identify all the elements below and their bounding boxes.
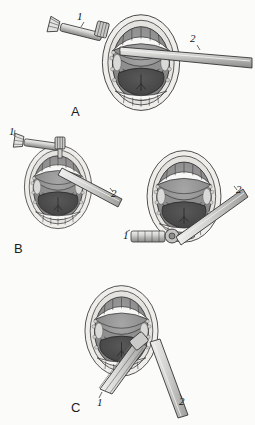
callout-C-1: 1 bbox=[97, 396, 103, 408]
callout-D-2: 2 bbox=[236, 183, 242, 195]
callout-D-1: 1 bbox=[123, 229, 129, 241]
callout-A-2: 2 bbox=[190, 32, 196, 44]
panel-A bbox=[47, 15, 252, 111]
panel-A-mouth bbox=[102, 15, 179, 111]
panel-D-mouth bbox=[147, 151, 221, 243]
callout-A-1: 1 bbox=[77, 10, 83, 22]
panel-letter-B: B bbox=[14, 241, 23, 256]
callout-B-2: 2 bbox=[111, 187, 117, 199]
callout-B-1: 1 bbox=[9, 125, 15, 137]
panel-D bbox=[126, 151, 248, 245]
illustration-figure bbox=[0, 0, 255, 425]
panel-letter-C: C bbox=[71, 400, 81, 415]
callout-C-2: 2 bbox=[179, 395, 185, 407]
panel-B bbox=[13, 130, 122, 229]
panel-letter-A: A bbox=[71, 104, 80, 119]
